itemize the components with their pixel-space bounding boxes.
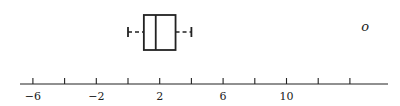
tick-label: 10 bbox=[280, 90, 294, 103]
tick-label: 2 bbox=[156, 90, 163, 103]
tick-label: −2 bbox=[88, 90, 104, 103]
outliers: o bbox=[361, 19, 369, 34]
box-plot-chart: −6−22610 o bbox=[0, 0, 400, 106]
x-axis: −6−22610 bbox=[20, 78, 388, 103]
box-plot bbox=[128, 15, 191, 50]
outlier-marker: o bbox=[361, 19, 369, 34]
tick-label: 6 bbox=[220, 90, 227, 103]
iqr-box bbox=[144, 15, 176, 50]
tick-label: −6 bbox=[25, 90, 41, 103]
